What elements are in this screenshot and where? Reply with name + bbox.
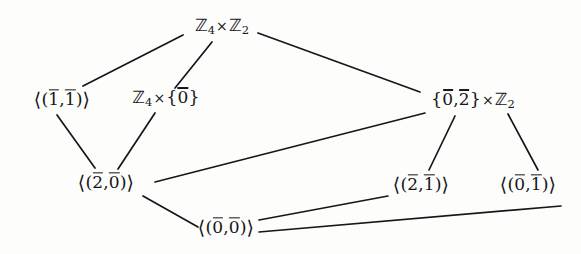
lattice-diagram: ℤ4×ℤ2 ⟨(1,1)⟩ ℤ4×{0} {0,2}×ℤ2 ⟨(2,0)⟩ ⟨(… [0,0,581,254]
node-gen-0-0[interactable]: ⟨(0,0)⟩ [198,217,254,236]
lattice-edges-layer [0,0,581,254]
lattice-edge-gen00-gen21 [259,196,388,220]
lattice-edge-z4times0-gen20 [118,113,155,169]
lattice-edge-gen20-set02timesz2 [155,113,425,182]
node-gen-0-0-label: ⟨(0,0)⟩ [198,217,254,237]
node-gen-2-1-label: ⟨(2,1)⟩ [393,174,449,194]
lattice-edge-set02timesz2-gen01 [508,114,538,170]
node-gen-0-1-label: ⟨(0,1)⟩ [500,174,556,194]
lattice-edge-top-z4times0 [175,42,212,88]
node-gen-2-0[interactable]: ⟨(2,0)⟩ [78,172,134,191]
node-z4-x-zero[interactable]: ℤ4×{0} [132,89,199,109]
node-set-0-2-x-z2-label: {0,2}×ℤ2 [431,89,515,109]
node-z4-x-z2-label: ℤ4×ℤ2 [195,15,249,35]
node-z4-x-z2[interactable]: ℤ4×ℤ2 [195,17,249,37]
node-set-0-2-x-z2[interactable]: {0,2}×ℤ2 [431,91,515,111]
node-z4-x-zero-label: ℤ4×{0} [132,87,199,107]
node-gen-2-1[interactable]: ⟨(2,1)⟩ [393,174,449,193]
node-gen-0-1[interactable]: ⟨(0,1)⟩ [500,174,556,193]
node-gen-1-1-label: ⟨(1,1)⟩ [34,89,90,109]
lattice-edge-gen00-gen01 [259,206,561,232]
lattice-edge-top-gen11 [83,35,183,86]
node-gen-1-1[interactable]: ⟨(1,1)⟩ [34,89,90,108]
lattice-edge-set02timesz2-gen21 [429,116,455,170]
lattice-edge-gen11-gen20 [57,115,95,168]
node-gen-2-0-label: ⟨(2,0)⟩ [78,172,134,192]
lattice-edge-top-set02timesz2 [258,33,420,92]
lattice-edge-gen20-gen00 [143,196,198,227]
